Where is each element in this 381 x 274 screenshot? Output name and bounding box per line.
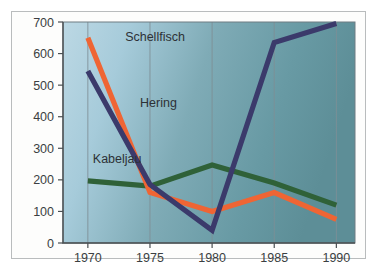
y-tick-label-600: 600: [33, 47, 54, 61]
x-tick-label-1980: 1980: [198, 251, 226, 265]
y-axis-tick-labels: 0100200300400500600700: [33, 16, 54, 251]
y-tick-label-0: 0: [47, 237, 54, 251]
x-tick-label-1990: 1990: [322, 251, 350, 265]
series-label-kabeljau: Kabeljau: [93, 152, 142, 166]
x-axis-tick-labels: 19701975198019851990: [74, 251, 350, 265]
y-tick-label-400: 400: [33, 110, 54, 124]
y-tick-label-200: 200: [33, 173, 54, 187]
x-axis-ticks: [88, 243, 337, 248]
y-axis-ticks: [58, 22, 63, 243]
fish-catch-line-chart: 0100200300400500600700 19701975198019851…: [0, 0, 381, 274]
y-tick-label-300: 300: [33, 142, 54, 156]
x-tick-label-1975: 1975: [136, 251, 164, 265]
chart-svg: 0100200300400500600700 19701975198019851…: [0, 0, 381, 274]
x-tick-label-1970: 1970: [74, 251, 102, 265]
x-tick-label-1985: 1985: [260, 251, 288, 265]
y-tick-label-700: 700: [33, 16, 54, 30]
series-label-hering: Hering: [140, 96, 177, 110]
y-tick-label-500: 500: [33, 79, 54, 93]
y-tick-label-100: 100: [33, 205, 54, 219]
series-label-schellfisch: Schellfisch: [125, 30, 185, 44]
